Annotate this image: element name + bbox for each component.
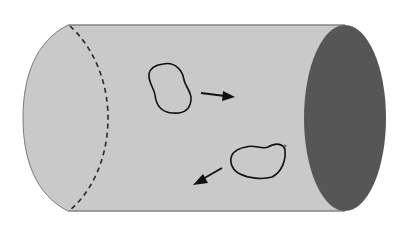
tube-body [23,25,345,211]
cell-2-dot [284,145,287,148]
tube-diagram [0,0,404,231]
tube-opening [304,25,386,211]
